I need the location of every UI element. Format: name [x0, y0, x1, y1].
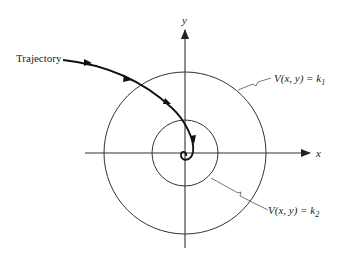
lyapunov-diagram: Trajectory x y V(x, y) = k1 V(x, y) = k2 — [0, 0, 339, 257]
inner-curve-label: V(x, y) = k2 — [268, 204, 319, 219]
x-axis-label: x — [315, 147, 321, 159]
trajectory-arrow-icon — [163, 98, 171, 104]
inner-label-leader — [211, 178, 268, 210]
trajectory-curve — [63, 60, 193, 160]
y-axis-label: y — [181, 14, 187, 26]
outer-label-leader — [238, 78, 271, 90]
outer-curve-label: V(x, y) = k1 — [274, 72, 325, 87]
trajectory-label: Trajectory — [16, 52, 62, 64]
